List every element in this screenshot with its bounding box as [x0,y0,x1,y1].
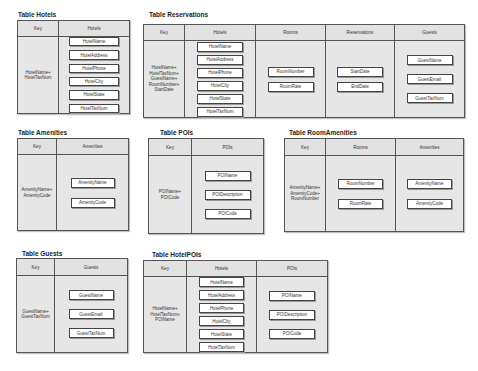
field-hotelname: HotelName [69,37,119,46]
field-guestname: GuestName [407,55,453,65]
field-poiname: POIName [205,171,251,181]
column-header: Amenities [396,139,463,156]
key-column: Key AmenityName+ AmenityCode [18,139,57,230]
column-header: Guests [55,259,127,276]
key-header: Key [144,261,186,277]
table-hotelpois-title: Table HotelPOIs [152,251,201,258]
table-reservations-title: Table Reservations [149,11,208,18]
field-poicode: POICode [269,329,315,339]
field-poiname: POIName [269,291,315,301]
field-startdate: StartDate [337,67,383,77]
field-roomnumber: RoomNumber [338,179,383,189]
field-hotelcity: HotelCity [199,316,244,326]
table-hotels: Key HotelName+ HotelTaxNum Hotels HotelN… [17,20,130,114]
amenities-column: Amenities AmenityName AmenityCode [396,139,463,231]
column-header: Hotels [59,21,129,37]
key-text: POIName+ POICode [159,189,181,200]
pois-column: POIs POIName POIDescription POICode [192,139,263,233]
field-hotelstate: HotelState [69,90,119,99]
field-amenityname: AmenityName [71,178,115,188]
field-guesttaxnum: GuestTaxNum [69,328,114,338]
field-hotelphone: HotelPhone [69,64,119,73]
key-column: Key HotelName+ HotelTaxNum+ POIName [144,261,187,352]
key-header: Key [18,139,56,155]
field-amenitycode: AmenityCode [71,198,115,208]
field-roomnumber: RoomNumber [268,67,314,77]
key-text: HotelName+ HotelTaxNum+ POIName [150,306,180,322]
hotels-column: Hotels HotelName HotelAddress HotelPhone… [187,261,257,352]
key-header: Key [149,139,191,156]
key-text: HotelName+ HotelTaxNum [24,70,51,81]
field-guestname: GuestName [69,290,114,300]
rooms-column: Rooms RoomNumber RoomRate [326,139,396,231]
table-guests: Key GuestName+ GuestTaxNum Guests GuestN… [16,258,128,353]
table-roomamenities: Key AmenityName+ AmenityCode+ RoomNumber… [284,138,464,232]
field-poicode: POICode [205,209,251,219]
column-header: POIs [257,261,327,277]
field-hotelcity: HotelCity [197,81,243,91]
table-hotels-title: Table Hotels [18,11,56,18]
field-amenityname: AmenityName [407,179,452,189]
column-header: Rooms [256,25,325,41]
column-header: Rooms [326,139,395,156]
key-text: GuestName+ GuestTaxNum [21,309,50,320]
key-column: Key HotelName+ HotelTaxNum+ GuestName+ R… [144,25,185,117]
field-guestemail: GuestEmail [407,74,453,84]
field-amenitycode: AmenityCode [407,199,452,209]
field-poidescription: POIDescription [205,190,251,200]
pois-column: POIs POIName POIDescription POICode [257,261,327,352]
field-hotelstate: HotelState [197,94,243,104]
table-guests-title: Table Guests [22,250,62,257]
field-hotelname: HotelName [199,277,244,287]
field-hoteltaxnum: HotelTaxNum [69,104,119,113]
reservations-column: Reservations StartDate EndDate [326,25,395,117]
key-header: Key [18,21,58,37]
field-hoteladdress: HotelAddress [69,50,119,59]
field-hotelphone: HotelPhone [199,303,244,313]
field-hotelstate: HotelState [199,329,244,339]
key-text: HotelName+ HotelTaxNum+ GuestName+ RoomN… [149,65,180,92]
key-column: Key AmenityName+ AmenityCode+ RoomNumber [285,139,326,231]
column-header: Hotels [187,261,256,277]
table-pois: Key POIName+ POICode POIs POIName POIDes… [148,138,264,234]
field-hotelname: HotelName [197,42,243,52]
field-enddate: EndDate [337,82,383,92]
field-hotelphone: HotelPhone [197,68,243,78]
key-header: Key [17,259,54,276]
column-header: Reservations [326,25,394,41]
table-amenities-title: Table Amenities [18,129,67,136]
key-header: Key [144,25,184,41]
field-hotelcity: HotelCity [69,77,119,86]
key-column: Key GuestName+ GuestTaxNum [17,259,55,352]
column-header: Amenities [57,139,128,155]
field-roomrate: RoomRate [338,199,383,209]
column-header: Guests [395,25,464,41]
field-guesttaxnum: GuestTaxNum [407,93,453,103]
guests-column: Guests GuestName GuestEmail GuestTaxNum [395,25,464,117]
key-column: Key POIName+ POICode [149,139,192,233]
key-column: Key HotelName+ HotelTaxNum [18,21,59,113]
table-reservations: Key HotelName+ HotelTaxNum+ GuestName+ R… [143,24,465,118]
hotels-column: Hotels HotelName HotelAddress HotelPhone… [59,21,129,113]
column-header: Hotels [185,25,255,41]
amenities-column: Amenities AmenityName AmenityCode [57,139,128,230]
key-text: AmenityName+ AmenityCode [22,187,53,198]
field-guestemail: GuestEmail [69,309,114,319]
guests-column: Guests GuestName GuestEmail GuestTaxNum [55,259,127,352]
table-roomamenities-title: Table RoomAmenities [289,129,357,136]
rooms-column: Rooms RoomNumber RoomRate [256,25,326,117]
field-roomrate: RoomRate [268,82,314,92]
field-poidescription: POIDescription [269,310,315,320]
table-pois-title: Table POIs [160,129,193,136]
key-text: AmenityName+ AmenityCode+ RoomNumber [290,185,321,201]
column-header: POIs [192,139,263,156]
field-hoteladdress: HotelAddress [197,55,243,65]
key-header: Key [285,139,325,156]
table-hotelpois: Key HotelName+ HotelTaxNum+ POIName Hote… [143,260,328,353]
field-hoteltaxnum: HotelTaxNum [199,342,244,352]
field-hoteltaxnum: HotelTaxNum [197,107,243,117]
hotels-column: Hotels HotelName HotelAddress HotelPhone… [185,25,256,117]
field-hoteladdress: HotelAddress [199,290,244,300]
table-amenities: Key AmenityName+ AmenityCode Amenities A… [17,138,129,231]
